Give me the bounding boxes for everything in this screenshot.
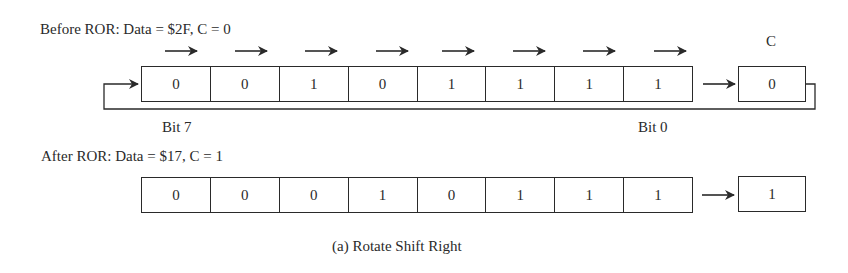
bit-6-cell: 0 xyxy=(211,67,280,101)
bit-1-cell: 1 xyxy=(555,178,624,212)
bit-7-cell: 0 xyxy=(142,178,211,212)
bit-6-cell: 0 xyxy=(211,178,280,212)
bit-0-cell: 1 xyxy=(624,67,692,101)
after-register: 0 0 0 1 0 1 1 1 xyxy=(141,177,693,213)
bit-5-cell: 1 xyxy=(280,67,349,101)
bit-1-cell: 1 xyxy=(555,67,624,101)
diagram-lines xyxy=(0,0,848,273)
after-carry-box: 1 xyxy=(738,176,806,212)
bit-2-cell: 1 xyxy=(486,67,555,101)
before-carry-box: 0 xyxy=(738,66,806,102)
figure-caption: (a) Rotate Shift Right xyxy=(332,239,462,254)
bit-4-cell: 1 xyxy=(349,178,418,212)
bit-0-cell: 1 xyxy=(624,178,692,212)
bit-4-cell: 0 xyxy=(349,67,418,101)
after-ror-title: After ROR: Data = $17, C = 1 xyxy=(41,149,223,164)
bit-2-cell: 1 xyxy=(486,178,555,212)
bit-5-cell: 0 xyxy=(280,178,349,212)
bit-3-cell: 1 xyxy=(418,67,487,101)
bit-3-cell: 0 xyxy=(418,178,487,212)
before-register: 0 0 1 0 1 1 1 1 xyxy=(141,66,693,102)
bit-7-label: Bit 7 xyxy=(162,120,192,135)
bit-0-label: Bit 0 xyxy=(638,120,668,135)
bit-7-cell: 0 xyxy=(142,67,211,101)
